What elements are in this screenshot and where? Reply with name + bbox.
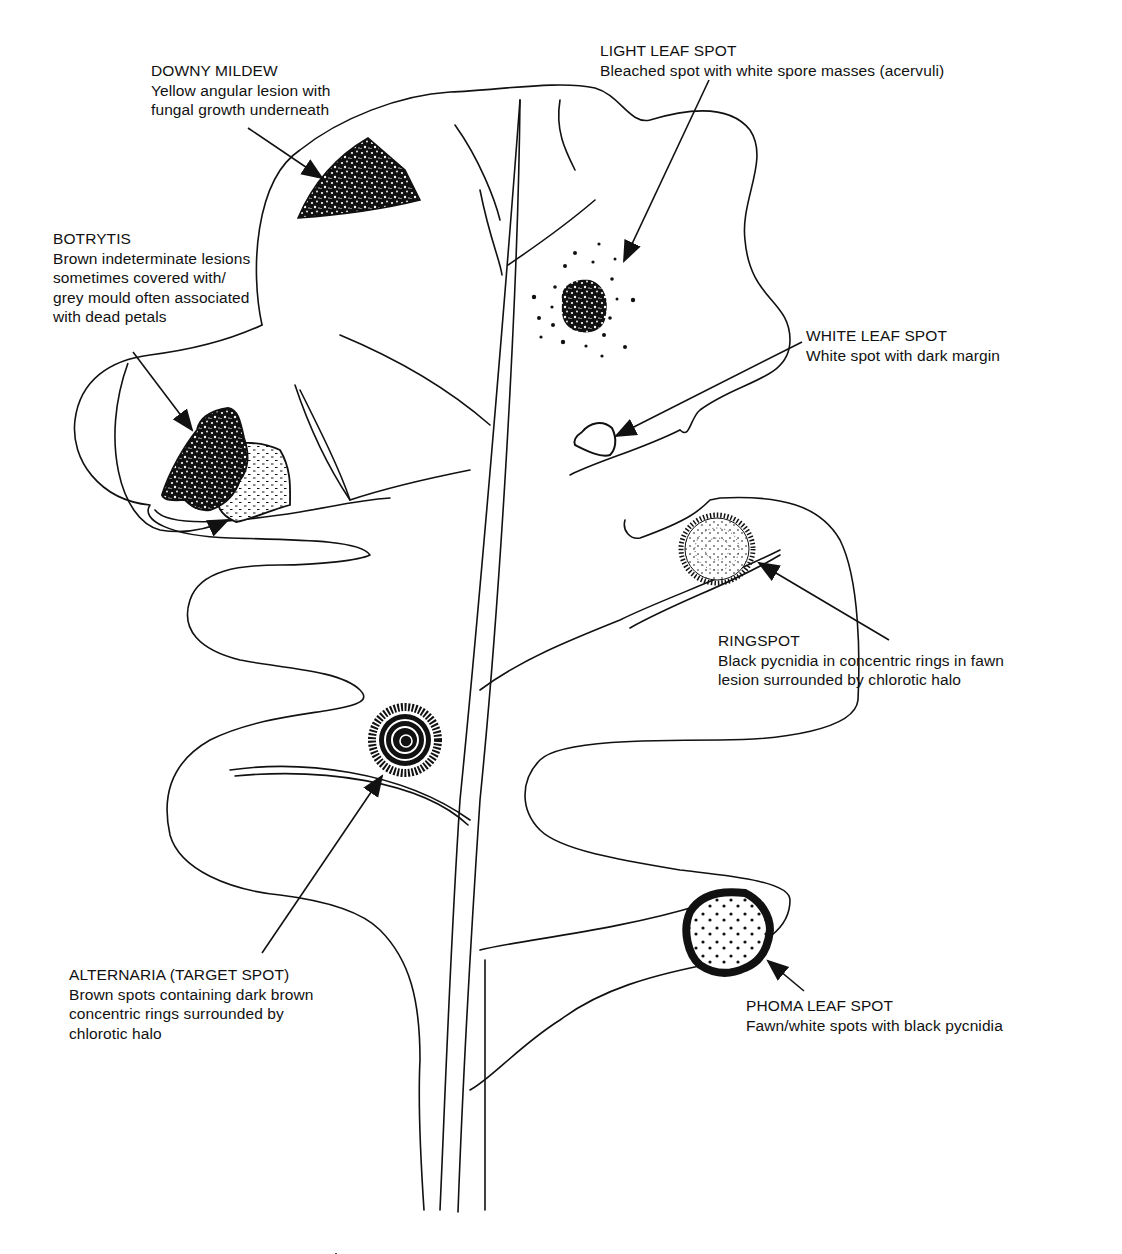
downy-mildew-arrow [248,128,322,178]
alternaria-arrow [262,776,382,953]
label-title: WHITE LEAF SPOT [806,326,1000,346]
label-desc: concentric rings surrounded by [69,1004,314,1024]
downy-mildew-lesion [298,138,420,218]
label-title: RINGSPOT [718,631,1004,651]
label-desc: Fawn/white spots with black pycnidia [746,1016,1003,1036]
label-desc: grey mould often associated [53,288,250,308]
label-desc: sometimes covered with/ [53,268,250,288]
label-desc: Brown indeterminate lesions [53,249,250,269]
label-ringspot: RINGSPOT Black pycnidia in concentric ri… [718,631,1004,690]
label-light-leaf-spot: LIGHT LEAF SPOT Bleached spot with white… [600,41,944,80]
label-phoma-leaf-spot: PHOMA LEAF SPOT Fawn/white spots with bl… [746,996,1003,1035]
label-title: LIGHT LEAF SPOT [600,41,944,61]
alternaria-lesion [372,707,438,773]
label-downy-mildew: DOWNY MILDEW Yellow angular lesion with … [151,61,331,120]
label-desc: with dead petals [53,307,250,327]
phoma-arrow [768,961,804,991]
label-title: PHOMA LEAF SPOT [746,996,1003,1016]
ringspot-arrow [759,563,889,640]
light-leaf-spot-arrow [624,80,709,261]
leaf-disease-diagram [0,0,1122,1254]
label-desc: Yellow angular lesion with [151,81,331,101]
label-desc: chlorotic halo [69,1024,314,1044]
label-desc: lesion surrounded by chlorotic halo [718,670,1004,690]
label-title: DOWNY MILDEW [151,61,331,81]
label-botrytis: BOTRYTIS Brown indeterminate lesions som… [53,229,250,327]
label-desc: Black pycnidia in concentric rings in fa… [718,651,1004,671]
label-white-leaf-spot: WHITE LEAF SPOT White spot with dark mar… [806,326,1000,365]
label-desc: fungal growth underneath [151,100,331,120]
white-leaf-spot-arrow [616,342,802,436]
midrib [440,100,520,1210]
label-desc: White spot with dark margin [806,346,1000,366]
label-desc: Bleached spot with white spore masses (a… [600,61,944,81]
label-desc: Brown spots containing dark brown [69,985,314,1005]
label-title: ALTERNARIA (TARGET SPOT) [69,965,314,985]
ringspot-lesion [681,515,753,583]
phoma-lesion [686,892,770,973]
label-alternaria: ALTERNARIA (TARGET SPOT) Brown spots con… [69,965,314,1043]
white-leaf-spot-lesion [574,423,615,456]
label-title: BOTRYTIS [53,229,250,249]
botrytis-arrow [133,352,192,430]
light-leaf-spot-lesion [532,242,635,357]
